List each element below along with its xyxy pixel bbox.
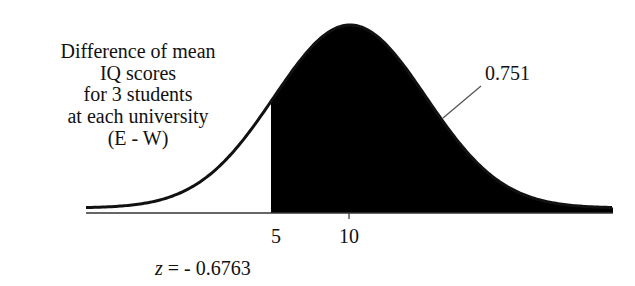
x-tick-label-10: 10 — [339, 225, 359, 247]
x-tick-label-5: 5 — [271, 225, 281, 247]
area-leader-line — [443, 86, 481, 118]
description-line-2: IQ scores — [100, 62, 176, 84]
distribution-description: Difference of mean IQ scores for 3 stude… — [60, 40, 215, 150]
description-line-1: Difference of mean — [60, 40, 215, 62]
z-variable: z — [154, 257, 163, 279]
z-value: = - 0.6763 — [163, 257, 251, 279]
description-line-3: for 3 students — [84, 83, 193, 105]
description-line-5: (E - W) — [108, 127, 169, 150]
description-line-4: at each university — [67, 105, 208, 128]
z-score-label: z = - 0.6763 — [154, 257, 251, 279]
shaded-area-label: 0.751 — [485, 62, 530, 84]
normal-distribution-figure: 5 10 z = - 0.6763 0.751 Difference of me… — [0, 0, 635, 286]
